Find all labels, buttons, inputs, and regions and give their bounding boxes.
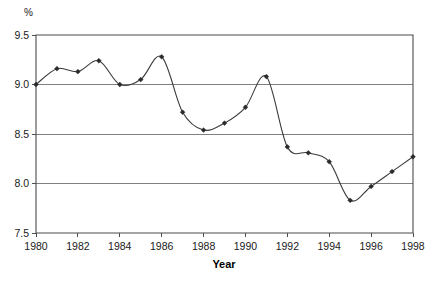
x-tick-label: 1998 [401,240,425,252]
x-tick-label: 1982 [66,240,90,252]
line-chart: % 7.58.08.59.09.5 1980198219841986198819… [0,0,442,281]
x-tick-label: 1990 [234,240,258,252]
x-tick-label: 1980 [24,240,48,252]
chart-background [0,0,442,281]
x-tick-label: 1984 [108,240,132,252]
y-tick-label: 7.5 [14,227,29,239]
y-axis-unit-label: % [24,7,33,18]
y-tick-label: 9.0 [14,78,29,90]
x-tick-label: 1988 [192,240,216,252]
x-axis-title: Year [212,258,236,270]
y-tick-label: 8.5 [14,128,29,140]
chart-container: % 7.58.08.59.09.5 1980198219841986198819… [0,0,442,281]
x-tick-label: 1986 [150,240,174,252]
x-tick-label: 1996 [359,240,383,252]
y-tick-label: 8.0 [14,177,29,189]
y-tick-label: 9.5 [14,29,29,41]
x-tick-label: 1994 [318,240,342,252]
x-tick-label: 1992 [276,240,300,252]
